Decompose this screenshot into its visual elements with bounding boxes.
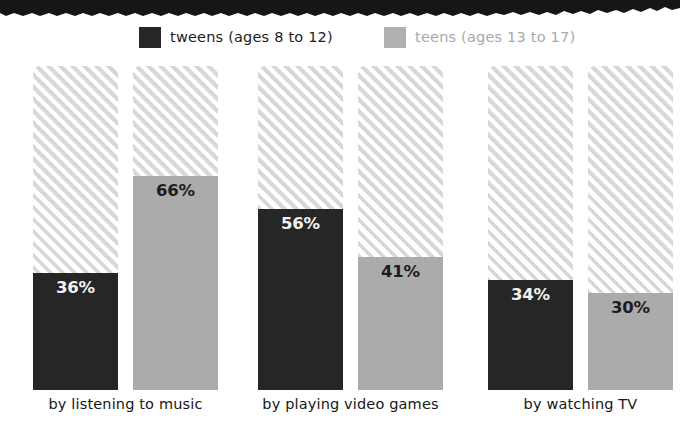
bar-fill: 34% <box>488 280 573 390</box>
category-label-playing-video-games: by playing video games <box>258 396 443 412</box>
bar-tweens-watching-tv: 34% <box>488 66 573 390</box>
bar-teens-playing-video-games: 41% <box>358 66 443 390</box>
bar-tweens-playing-video-games: 56% <box>258 66 343 390</box>
bar-value-label: 36% <box>56 280 95 297</box>
bar-fill: 36% <box>33 273 118 390</box>
bar-fill: 41% <box>358 257 443 390</box>
category-label-listening-to-music: by listening to music <box>33 396 218 412</box>
category-label-watching-tv: by watching TV <box>488 396 673 412</box>
bar-tweens-listening-to-music: 36% <box>33 66 118 390</box>
bar-teens-watching-tv: 30% <box>588 66 673 390</box>
bar-chart-plot-area: 36% 66% 56% 41% 34% <box>0 0 680 431</box>
bar-fill: 30% <box>588 293 673 390</box>
bar-value-label: 41% <box>381 264 420 281</box>
bar-value-label: 30% <box>611 300 650 317</box>
bar-fill: 56% <box>258 209 343 390</box>
bar-fill: 66% <box>133 176 218 390</box>
bar-value-label: 56% <box>281 216 320 233</box>
bar-value-label: 66% <box>156 183 195 200</box>
bar-value-label: 34% <box>511 287 550 304</box>
bar-teens-listening-to-music: 66% <box>133 66 218 390</box>
